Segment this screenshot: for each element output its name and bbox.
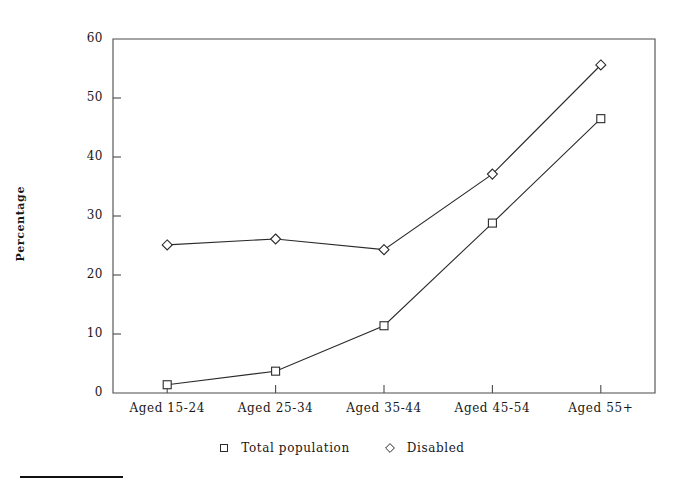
legend-label-disabled: Disabled (407, 441, 465, 455)
x-axis-tick-label: Aged 45-54 (432, 401, 552, 415)
chart-legend: Total population Disabled (0, 441, 683, 455)
line-chart-canvas (0, 0, 683, 490)
data-point-marker (597, 115, 605, 123)
legend-label-total-population: Total population (241, 441, 349, 455)
open-square-icon (218, 442, 230, 454)
y-axis-tick-label: 50 (73, 90, 103, 104)
y-axis-tick-label: 60 (73, 31, 103, 45)
data-point-marker (379, 245, 389, 255)
y-axis-tick-label: 20 (73, 267, 103, 281)
data-point-marker (162, 240, 172, 250)
footnote-rule (20, 476, 123, 478)
series-layer (162, 60, 606, 389)
x-axis-tick-label: Aged 15-24 (107, 401, 227, 415)
data-point-marker (271, 234, 281, 244)
data-point-marker (163, 381, 171, 389)
y-axis-tick-label: 0 (73, 385, 103, 399)
y-axis-tick-label: 40 (73, 149, 103, 163)
data-point-marker (380, 322, 388, 330)
y-axis-tick-label: 10 (73, 326, 103, 340)
x-axis-tick-label: Aged 25-34 (216, 401, 336, 415)
legend-item-disabled: Disabled (384, 441, 465, 455)
data-point-marker (488, 219, 496, 227)
chart-figure: Percentage 0102030405060 Aged 15-24Aged … (0, 0, 683, 490)
open-diamond-icon (384, 442, 396, 454)
x-axis-tick-label: Aged 55+ (541, 401, 661, 415)
y-axis-tick-label: 30 (73, 208, 103, 222)
legend-item-total-population: Total population (218, 441, 349, 455)
data-point-marker (272, 367, 280, 375)
x-axis-tick-label: Aged 35-44 (324, 401, 444, 415)
